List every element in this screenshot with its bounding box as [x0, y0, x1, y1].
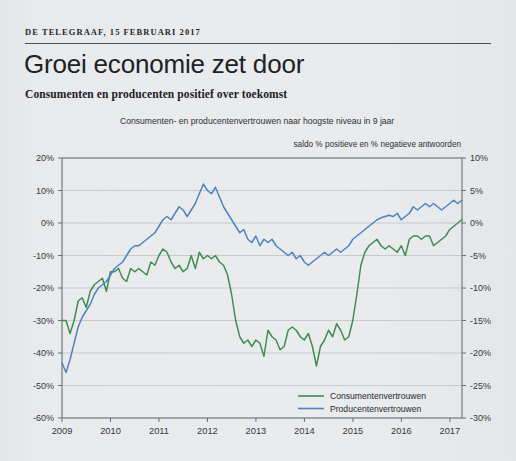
x-axis-tick-label: 2015: [343, 426, 364, 436]
y-axis-right-tick-label: 5%: [470, 186, 483, 196]
y-axis-left-tick-label: -50%: [33, 381, 54, 391]
infographic-root: DE TELEGRAAF, 15 FEBRUARI 2017 Groei eco…: [0, 0, 516, 461]
x-axis-tick-label: 2011: [149, 426, 169, 436]
x-axis-tick-label: 2013: [246, 426, 267, 436]
y-axis-left-tick-label: 20%: [36, 153, 54, 163]
x-axis-tick-label: 2009: [52, 426, 73, 436]
y-axis-right-tick-label: 10%: [470, 153, 488, 163]
y-axis-right-tick-label: -10%: [470, 283, 491, 293]
y-axis-left-tick-label: -10%: [33, 251, 54, 261]
y-axis-right-tick-label: -25%: [470, 381, 491, 391]
y-axis-left-tick-label: -20%: [33, 283, 54, 293]
x-axis-tick-label: 2014: [294, 426, 315, 436]
y-axis-right-tick-label: -5%: [470, 251, 486, 261]
chart-container: 20%10%0%-10%-20%-30%-40%-50%-60%10%5%0%-…: [0, 0, 516, 461]
y-axis-right-tick-label: -30%: [470, 413, 491, 423]
y-axis-left-tick-label: -30%: [33, 316, 54, 326]
x-axis-tick-label: 2017: [440, 426, 461, 436]
y-axis-right-tick-label: -20%: [470, 348, 491, 358]
legend-label: Producentenvertrouwen: [330, 404, 421, 414]
x-axis-tick-label: 2012: [197, 426, 218, 436]
y-axis-left-tick-label: 0%: [41, 218, 54, 228]
x-axis-tick-label: 2016: [391, 426, 412, 436]
legend-label: Consumentenvertrouwen: [330, 391, 426, 401]
x-axis-tick-label: 2010: [100, 426, 121, 436]
line-chart: 20%10%0%-10%-20%-30%-40%-50%-60%10%5%0%-…: [0, 0, 516, 461]
y-axis-left-tick-label: -40%: [33, 348, 54, 358]
y-axis-left-tick-label: 10%: [36, 186, 54, 196]
y-axis-left-tick-label: -60%: [33, 413, 54, 423]
y-axis-right-tick-label: 0%: [470, 218, 483, 228]
y-axis-right-tick-label: -15%: [470, 316, 491, 326]
